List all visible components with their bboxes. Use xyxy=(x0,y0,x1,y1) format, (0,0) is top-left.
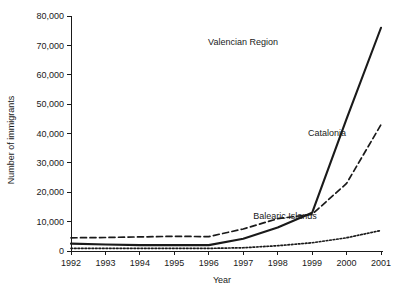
y-tick-label: 60,000 xyxy=(36,70,64,80)
series-label-balearic-islands: Balearic Islands xyxy=(253,211,317,221)
x-tick-label: 1997 xyxy=(233,258,253,268)
x-axis: 1992199319941995199619971998199920002001 xyxy=(61,251,391,268)
series-label-valencian-region: Valencian Region xyxy=(208,37,278,47)
y-tick-label: 50,000 xyxy=(36,99,64,109)
series-lines xyxy=(71,28,381,249)
x-tick-label: 2000 xyxy=(337,258,357,268)
y-tick-label: 30,000 xyxy=(36,158,64,168)
x-axis-title: Year xyxy=(213,275,231,285)
series-line-catalonia xyxy=(71,125,381,238)
y-tick-label: 20,000 xyxy=(36,187,64,197)
y-tick-label: 70,000 xyxy=(36,41,64,51)
x-tick-label: 1998 xyxy=(268,258,288,268)
y-axis: 010,00020,00030,00040,00050,00060,00070,… xyxy=(36,11,71,256)
immigration-line-chart: 010,00020,00030,00040,00050,00060,00070,… xyxy=(0,0,404,293)
y-tick-label: 80,000 xyxy=(36,11,64,21)
x-tick-label: 1992 xyxy=(61,258,81,268)
x-tick-label: 1996 xyxy=(199,258,219,268)
x-tick-label: 1999 xyxy=(302,258,322,268)
chart-canvas: 010,00020,00030,00040,00050,00060,00070,… xyxy=(0,0,404,293)
series-annotations: Valencian RegionCataloniaBalearic Island… xyxy=(208,37,346,221)
x-tick-label: 1995 xyxy=(164,258,184,268)
y-axis-title: Number of immigrants xyxy=(6,95,16,184)
y-tick-label: 40,000 xyxy=(36,129,64,139)
y-tick-label: 0 xyxy=(59,246,64,256)
x-tick-label: 1994 xyxy=(130,258,150,268)
y-tick-label: 10,000 xyxy=(36,217,64,227)
series-label-catalonia: Catalonia xyxy=(308,128,346,138)
x-tick-label: 1993 xyxy=(95,258,115,268)
x-tick-label: 2001 xyxy=(371,258,391,268)
